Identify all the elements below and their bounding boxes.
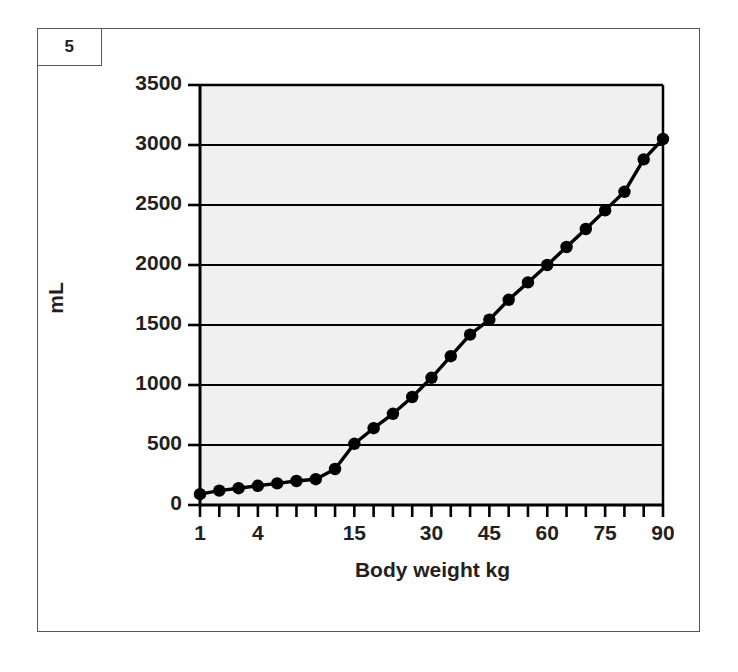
x-axis-tick-label: 75 [585,521,625,545]
x-axis-title: Body weight kg [200,558,665,582]
figure-number: 5 [65,37,75,57]
y-axis-tick-label: 500 [96,431,182,455]
x-axis-tick-label: 1 [180,521,220,545]
y-axis-tick-label: 3500 [96,71,182,95]
y-axis-tick-label: 2000 [96,251,182,275]
x-axis-tick-label: 60 [527,521,567,545]
x-axis-tick-label: 30 [412,521,452,545]
y-axis-tick-label: 2500 [96,191,182,215]
x-axis-tick-label: 45 [469,521,509,545]
y-axis-title: mL [44,238,68,358]
x-axis-tick-label: 15 [334,521,374,545]
x-axis-tick-label: 90 [643,521,683,545]
x-axis-tick-label: 4 [238,521,278,545]
figure-number-box: 5 [37,28,102,66]
y-axis-tick-label: 1500 [96,311,182,335]
y-axis-tick-label: 1000 [96,371,182,395]
y-axis-tick-label: 0 [96,491,182,515]
y-axis-tick-label: 3000 [96,131,182,155]
